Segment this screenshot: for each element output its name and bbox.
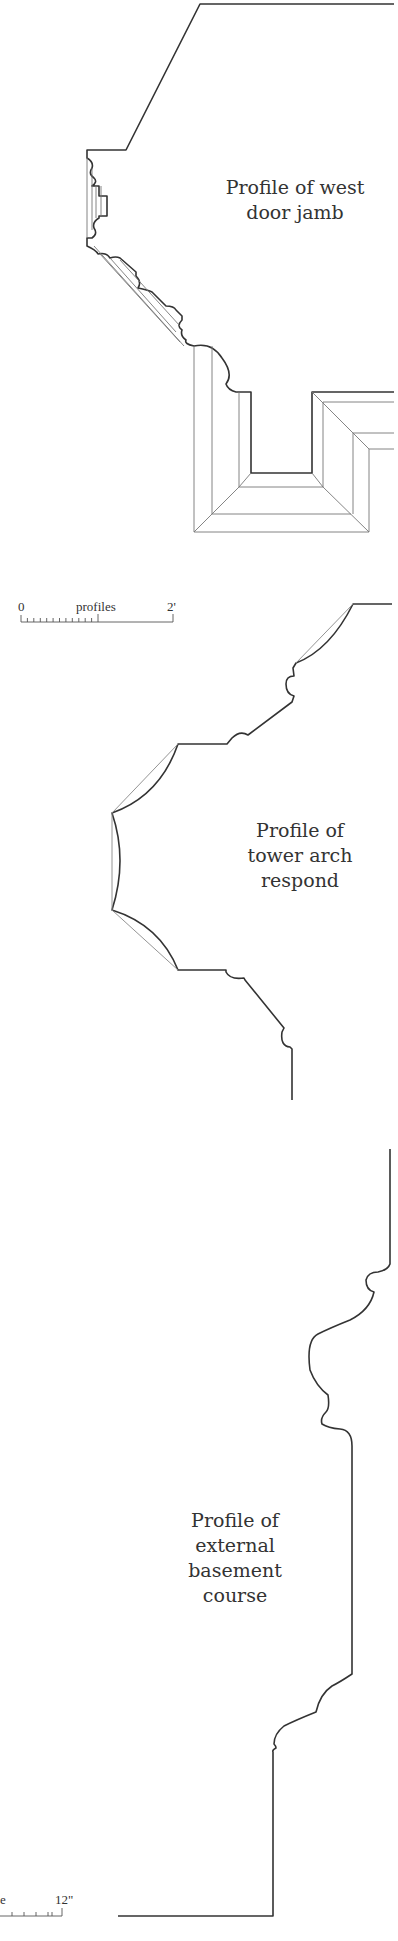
profiles-scale-start-label: 0 [18, 600, 25, 614]
caption-line: basement [170, 1558, 300, 1583]
external-basement-course-caption: Profile of external basement course [170, 1508, 300, 1608]
caption-line: Profile of [225, 818, 375, 843]
architectural-profiles-drawing [0, 0, 398, 1941]
caption-line: external [170, 1533, 300, 1558]
caption-line: tower arch [225, 843, 375, 868]
profiles-scale-title: profiles [76, 600, 116, 614]
inch-scale-bar [0, 1908, 62, 1916]
caption-line: course [170, 1583, 300, 1608]
tower-arch-respond-caption: Profile of tower arch respond [225, 818, 375, 893]
profiles-scale-bar [21, 614, 173, 622]
inch-scale-end-label: 12" [55, 1893, 73, 1907]
caption-line: Profile of west [200, 175, 390, 200]
inch-scale-title-fragment: e [0, 1893, 6, 1907]
west-door-jamb-profile [87, 4, 394, 532]
west-door-jamb-caption: Profile of west door jamb [200, 175, 390, 225]
profiles-scale-end-label: 2' [167, 600, 176, 614]
caption-line: respond [225, 868, 375, 893]
caption-line: Profile of [170, 1508, 300, 1533]
caption-line: door jamb [200, 200, 390, 225]
